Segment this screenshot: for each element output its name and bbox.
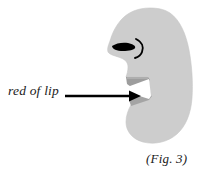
figure-caption: (Fig. 3) bbox=[146, 152, 187, 165]
pointer-arrow bbox=[65, 91, 141, 102]
red-of-lip-label: red of lip bbox=[8, 84, 59, 98]
figure-container: red of lip (Fig. 3) bbox=[0, 0, 205, 177]
head-silhouette-group bbox=[108, 8, 193, 143]
head-silhouette bbox=[108, 8, 193, 143]
